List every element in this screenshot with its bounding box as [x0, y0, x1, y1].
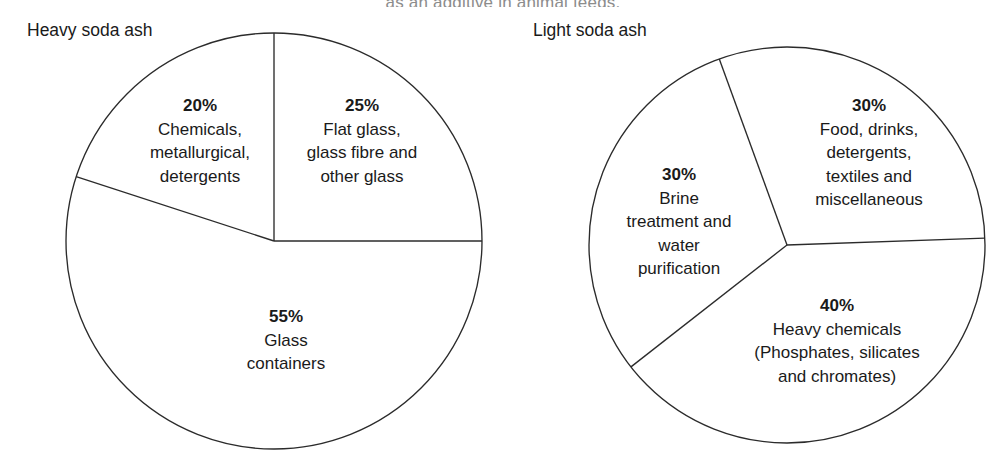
pie-heavy-soda-ash	[66, 33, 482, 449]
pie-slice-percent: 30%	[815, 94, 923, 118]
pie-slice-label: 55%Glasscontainers	[247, 305, 325, 376]
pie-slice-description: Brinetreatment andwaterpurification	[627, 187, 732, 281]
pie-slice-description-line: containers	[247, 352, 325, 376]
pie-slice-label: 25%Flat glass,glass fibre andother glass	[307, 94, 418, 188]
pie-slice-description-line: purification	[627, 257, 732, 281]
pie-slice-percent: 25%	[307, 94, 418, 118]
pie-slice-description-line: water	[627, 234, 732, 258]
pie-slice-divider	[787, 238, 985, 245]
pie-slice-label: 30%Food, drinks,detergents,textiles andm…	[815, 94, 923, 212]
pie-slice-description-line: Chemicals,	[150, 118, 250, 142]
pie-slice-percent: 30%	[627, 163, 732, 187]
pie-charts-canvas	[0, 0, 1006, 466]
pie-slice-description-line: and chromates)	[754, 365, 919, 389]
pie-slice-description-line: Food, drinks,	[815, 118, 923, 142]
pie-slice-percent: 55%	[247, 305, 325, 329]
soda-ash-figure: as an additive in animal feeds. Heavy so…	[0, 0, 1006, 466]
pie-slice-description-line: (Phosphates, silicates	[754, 341, 919, 365]
pie-slice-description: Glasscontainers	[247, 328, 325, 375]
pie-slice-description-line: Heavy chemicals	[754, 318, 919, 342]
pie-slice-description-line: treatment and	[627, 210, 732, 234]
pie-slice-description: Chemicals,metallurgical,detergents	[150, 118, 250, 189]
pie-slice-label: 40%Heavy chemicals(Phosphates, silicates…	[754, 294, 919, 388]
pie-slice-description-line: Flat glass,	[307, 118, 418, 142]
pie-slice-description-line: metallurgical,	[150, 141, 250, 165]
pie-slice-description-line: glass fibre and	[307, 141, 418, 165]
pie-slice-description-line: textiles and	[815, 165, 923, 189]
pie-slice-description-line: detergents,	[815, 141, 923, 165]
pie-slice-description-line: detergents	[150, 165, 250, 189]
pie-slice-description-line: other glass	[307, 165, 418, 189]
pie-slice-percent: 20%	[150, 94, 250, 118]
chart-title-heavy-soda-ash: Heavy soda ash	[27, 20, 153, 40]
pie-slice-label: 30%Brinetreatment andwaterpurification	[627, 163, 732, 281]
chart-title-light-soda-ash: Light soda ash	[533, 20, 647, 40]
pie-slice-description: Food, drinks,detergents,textiles andmisc…	[815, 118, 923, 212]
pie-slice-percent: 40%	[754, 294, 919, 318]
pie-slice-description-line: Glass	[247, 328, 325, 352]
pie-slice-label: 20%Chemicals,metallurgical,detergents	[150, 94, 250, 188]
pie-slice-description-line: Brine	[627, 187, 732, 211]
pie-slice-description: Flat glass,glass fibre andother glass	[307, 118, 418, 189]
pie-slice-description-line: miscellaneous	[815, 188, 923, 212]
pie-slice-description: Heavy chemicals(Phosphates, silicatesand…	[754, 318, 919, 389]
